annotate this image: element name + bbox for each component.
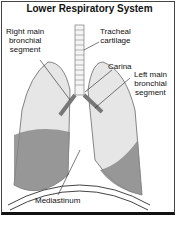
- label-right-main-bronchial: Right main bronchial segment: [6, 27, 44, 54]
- label-tracheal-cartilage: Tracheal cartilage: [100, 27, 131, 45]
- label-mediastinum: Mediastinum: [35, 196, 80, 205]
- label-carina: Carina: [108, 62, 132, 71]
- label-left-main-bronchial: Left main bronchial segment: [134, 70, 167, 97]
